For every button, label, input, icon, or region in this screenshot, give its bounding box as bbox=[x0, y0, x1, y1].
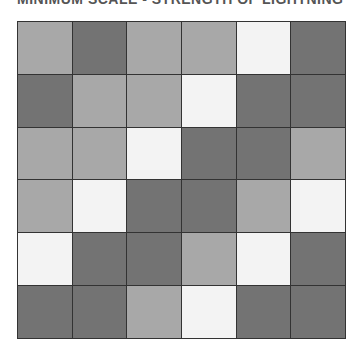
grid-cell bbox=[73, 180, 127, 232]
grid-cell bbox=[127, 22, 181, 74]
grid-cell bbox=[182, 286, 236, 338]
grid-cell bbox=[73, 128, 127, 180]
grid-cell bbox=[291, 75, 345, 127]
grid-cell bbox=[73, 75, 127, 127]
grid-cell bbox=[237, 128, 291, 180]
grid-cell bbox=[291, 22, 345, 74]
grid-cell bbox=[291, 233, 345, 285]
grid-cell bbox=[182, 128, 236, 180]
grid-cell bbox=[127, 233, 181, 285]
grid-cell bbox=[182, 180, 236, 232]
grid-cell bbox=[73, 22, 127, 74]
grid-cell bbox=[73, 233, 127, 285]
grid-cell bbox=[237, 75, 291, 127]
grid-cell bbox=[237, 22, 291, 74]
grid-cell bbox=[182, 233, 236, 285]
grid-cell bbox=[182, 75, 236, 127]
grid-cell bbox=[237, 286, 291, 338]
grid-cell bbox=[18, 22, 72, 74]
grid-cell bbox=[182, 22, 236, 74]
grid-cell bbox=[127, 286, 181, 338]
grid-cell bbox=[291, 180, 345, 232]
grid-cell bbox=[291, 286, 345, 338]
grid-cell bbox=[18, 233, 72, 285]
grid-cell bbox=[18, 286, 72, 338]
grid-cell bbox=[18, 128, 72, 180]
grid-cell bbox=[291, 128, 345, 180]
grid-cell bbox=[127, 75, 181, 127]
grid-cell bbox=[237, 233, 291, 285]
grid-cell bbox=[18, 75, 72, 127]
shade-grid bbox=[17, 21, 346, 339]
grid-cell bbox=[237, 180, 291, 232]
grid-cell bbox=[73, 286, 127, 338]
grid-cell bbox=[127, 128, 181, 180]
grid-cell bbox=[127, 180, 181, 232]
grid-cell bbox=[18, 180, 72, 232]
figure-title: MINIMUM SCALE - STRENGTH OF LIGHTNING bbox=[17, 0, 343, 7]
